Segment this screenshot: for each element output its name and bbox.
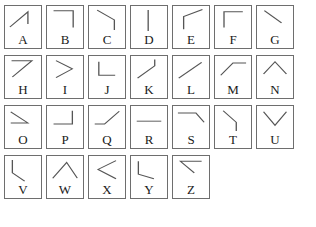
glyph-cell-label: B	[47, 33, 83, 47]
horizontal-top-then-diagonal-down-left-icon	[5, 56, 41, 84]
vertical-up-then-diagonal-up-right-icon	[173, 6, 209, 34]
glyph-cell-label: N	[257, 83, 293, 97]
vertical-line-center-icon	[131, 6, 167, 34]
glyph-cell-label: Z	[173, 183, 209, 197]
glyph-cell-label: X	[89, 183, 125, 197]
glyph-grid-sheet: ABCDEFGHIJKLMNOPQRSTUVWXYZ	[0, 0, 316, 227]
glyph-cell-r[interactable]: R	[130, 105, 168, 149]
glyph-cell-g[interactable]: G	[256, 5, 294, 49]
horizontal-line-icon	[131, 106, 167, 134]
glyph-row: HIJKLMN	[0, 50, 316, 100]
glyph-cell-y[interactable]: Y	[130, 155, 168, 199]
glyph-cell-label: R	[131, 133, 167, 147]
diagonal-up-right-then-horizontal-icon	[215, 56, 251, 84]
glyph-cell-label: S	[173, 133, 209, 147]
glyph-cell-label: V	[5, 183, 41, 197]
glyph-cell-f[interactable]: F	[214, 5, 252, 49]
glyph-cell-t[interactable]: T	[214, 105, 252, 149]
glyph-cell-label: U	[257, 133, 293, 147]
glyph-cell-label: M	[215, 83, 251, 97]
glyph-cell-k[interactable]: K	[130, 55, 168, 99]
caret-up-icon	[257, 56, 293, 84]
diagonal-up-right-then-diagonal-down-right-icon	[47, 156, 83, 184]
glyph-cell-label: P	[47, 133, 83, 147]
glyph-cell-h[interactable]: H	[4, 55, 42, 99]
vertical-down-then-horizontal-top-right-icon	[215, 6, 251, 34]
short-diagonal-then-vertical-bottom-icon	[131, 156, 167, 184]
glyph-cell-label: W	[47, 183, 83, 197]
horizontal-then-vertical-up-right-icon	[47, 106, 83, 134]
glyph-row: ABCDEFG	[0, 0, 316, 50]
glyph-cell-d[interactable]: D	[130, 5, 168, 49]
vertical-then-diagonal-down-right-icon	[5, 156, 41, 184]
glyph-cell-a[interactable]: A	[4, 5, 42, 49]
glyph-cell-label: J	[89, 83, 125, 97]
glyph-cell-label: I	[47, 83, 83, 97]
glyph-cell-l[interactable]: L	[172, 55, 210, 99]
glyph-cell-label: E	[173, 33, 209, 47]
glyph-cell-z[interactable]: Z	[172, 155, 210, 199]
diagonal-down-right-then-vertical-down-icon	[215, 106, 251, 134]
glyph-cell-j[interactable]: J	[88, 55, 126, 99]
glyph-cell-s[interactable]: S	[172, 105, 210, 149]
glyph-cell-x[interactable]: X	[88, 155, 126, 199]
diagonal-up-right-then-vertical-down-icon	[5, 6, 41, 34]
diagonal-up-right-then-vertical-up-icon	[131, 56, 167, 84]
glyph-cell-label: C	[89, 33, 125, 47]
glyph-cell-label: H	[5, 83, 41, 97]
horizontal-then-diagonal-up-right-icon	[89, 106, 125, 134]
diagonal-down-right-then-vertical-icon	[257, 6, 293, 34]
horizontal-then-diagonal-down-left-icon	[173, 156, 209, 184]
glyph-cell-w[interactable]: W	[46, 155, 84, 199]
horizontal-then-diagonal-down-right-icon	[173, 106, 209, 134]
glyph-cell-c[interactable]: C	[88, 5, 126, 49]
glyph-cell-v[interactable]: V	[4, 155, 42, 199]
diagonal-up-right-icon	[173, 56, 209, 84]
diagonal-down-right-then-vertical-down-icon	[89, 6, 125, 34]
glyph-row: OPQRSTU	[0, 100, 316, 150]
glyph-cell-label: A	[5, 33, 41, 47]
glyph-cell-label: D	[131, 33, 167, 47]
glyph-cell-i[interactable]: I	[46, 55, 84, 99]
glyph-cell-m[interactable]: M	[214, 55, 252, 99]
glyph-cell-p[interactable]: P	[46, 105, 84, 149]
chevron-right-icon	[47, 56, 83, 84]
glyph-cell-label: G	[257, 33, 293, 47]
glyph-cell-label: Q	[89, 133, 125, 147]
chevron-left-icon	[89, 156, 125, 184]
diagonal-down-right-then-horizontal-icon	[5, 106, 41, 134]
glyph-cell-q[interactable]: Q	[88, 105, 126, 149]
vertical-then-horizontal-bottom-right-icon	[89, 56, 125, 84]
glyph-row: VWXYZ	[0, 150, 316, 200]
glyph-cell-n[interactable]: N	[256, 55, 294, 99]
horizontal-top-then-vertical-down-icon	[47, 6, 83, 34]
glyph-cell-label: O	[5, 133, 41, 147]
glyph-cell-label: F	[215, 33, 251, 47]
v-shape-icon	[257, 106, 293, 134]
glyph-cell-o[interactable]: O	[4, 105, 42, 149]
glyph-cell-label: L	[173, 83, 209, 97]
glyph-cell-u[interactable]: U	[256, 105, 294, 149]
glyph-cell-e[interactable]: E	[172, 5, 210, 49]
glyph-cell-label: Y	[131, 183, 167, 197]
glyph-cell-label: K	[131, 83, 167, 97]
glyph-cell-b[interactable]: B	[46, 5, 84, 49]
glyph-cell-label: T	[215, 133, 251, 147]
